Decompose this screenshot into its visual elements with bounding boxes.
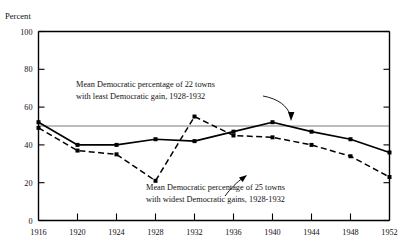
data-point-marker <box>271 135 275 139</box>
y-tick-label: 0 <box>28 217 32 226</box>
x-tick-label: 1940 <box>264 228 280 237</box>
y-axis-tick-labels: 020406080100 <box>20 28 32 226</box>
annotation-least-gain-leader <box>263 96 291 116</box>
y-axis-title: Percent <box>5 11 31 21</box>
data-point-marker <box>310 130 314 134</box>
data-point-marker <box>76 149 80 153</box>
x-tick-label: 1944 <box>303 228 319 237</box>
data-point-marker <box>193 115 197 119</box>
data-point-marker <box>349 137 353 141</box>
x-tick-label: 1932 <box>186 228 202 237</box>
data-point-marker <box>388 150 392 154</box>
data-point-marker <box>193 139 197 143</box>
data-point-marker <box>37 126 41 130</box>
data-point-marker <box>37 120 41 124</box>
annotation-least-gain-line2: with least Democratic gain, 1928-1932 <box>76 92 205 101</box>
chart-container: Percent 020406080100 1916192019241928193… <box>0 0 409 252</box>
y-tick-label: 100 <box>20 28 32 37</box>
x-tick-label: 1928 <box>147 228 163 237</box>
data-point-marker <box>232 130 236 134</box>
x-tick-label: 1916 <box>30 228 46 237</box>
data-point-marker <box>115 143 119 147</box>
x-tick-label: 1920 <box>69 228 85 237</box>
data-point-marker <box>271 120 275 124</box>
data-point-marker <box>76 143 80 147</box>
annotation-widest-gains-line1: Mean Democratic percentage of 25 towns <box>146 183 285 192</box>
annotation-widest-gains-line2: with widest Democratic gains, 1928-1932 <box>146 195 285 204</box>
x-tick-label: 1948 <box>342 228 358 237</box>
data-point-marker <box>349 154 353 158</box>
annotation-least-gain-line1: Mean Democratic percentage of 22 towns <box>76 80 215 89</box>
data-point-marker <box>388 175 392 179</box>
x-tick-label: 1936 <box>225 228 241 237</box>
x-axis-ticks <box>78 214 351 221</box>
line-chart-svg: Percent 020406080100 1916192019241928193… <box>0 0 409 252</box>
y-tick-label: 80 <box>24 65 32 74</box>
annotation-least-gain-arrowhead <box>288 112 294 121</box>
y-tick-label: 40 <box>24 141 32 150</box>
x-tick-label: 1952 <box>381 228 397 237</box>
data-point-marker <box>154 137 158 141</box>
data-point-marker <box>310 143 314 147</box>
y-tick-label: 20 <box>24 179 32 188</box>
x-tick-label: 1924 <box>108 228 124 237</box>
data-point-marker <box>115 152 119 156</box>
annotation-widest-gains-arrowhead <box>239 175 247 182</box>
x-axis-tick-labels: 1916192019241928193219361940194419481952 <box>30 228 397 237</box>
data-point-marker <box>232 133 236 137</box>
series-markers-widest-gains <box>37 115 392 183</box>
y-tick-label: 60 <box>24 103 32 112</box>
